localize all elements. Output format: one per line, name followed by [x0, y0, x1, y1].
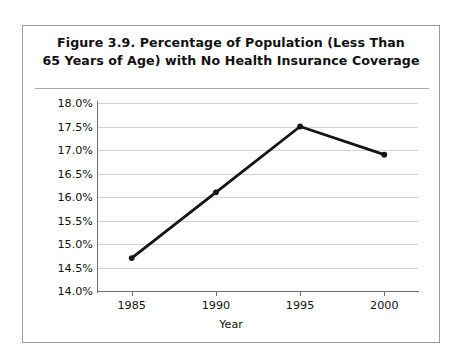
plot-area [98, 103, 418, 291]
y-axis-tick-label: 17.5% [29, 120, 93, 133]
x-axis-tick-mark [132, 291, 133, 296]
y-axis-tick-label: 16.0% [29, 191, 93, 204]
x-axis-tick-mark [300, 291, 301, 296]
gridline [98, 103, 418, 104]
x-axis-title: Year [23, 318, 439, 331]
y-axis-tick-label: 15.0% [29, 238, 93, 251]
gridline [98, 221, 418, 222]
y-axis-tick-label: 16.5% [29, 167, 93, 180]
y-axis-tick-label: 14.5% [29, 261, 93, 274]
y-axis-tick-label: 18.0% [29, 97, 93, 110]
y-axis-line [97, 101, 98, 293]
x-axis-tick-mark [384, 291, 385, 296]
x-axis-tick-label: 1985 [102, 299, 162, 312]
x-axis-tick-mark [216, 291, 217, 296]
figure-frame: Figure 3.9. Percentage of Population (Le… [22, 25, 440, 343]
x-axis-tick-label: 1990 [186, 299, 246, 312]
x-axis-line [97, 291, 419, 292]
y-axis-tick-label: 17.0% [29, 144, 93, 157]
gridline [98, 268, 418, 269]
gridline [98, 197, 418, 198]
gridline [98, 244, 418, 245]
y-axis-tick-label: 14.0% [29, 285, 93, 298]
x-axis-tick-label: 2000 [354, 299, 414, 312]
x-axis-tick-label: 1995 [270, 299, 330, 312]
gridline [98, 150, 418, 151]
gridline [98, 127, 418, 128]
y-axis-tick-label: 15.5% [29, 214, 93, 227]
line-chart: 18.0%17.5%17.0%16.5%16.0%15.5%15.0%14.5%… [23, 26, 439, 342]
gridline [98, 174, 418, 175]
